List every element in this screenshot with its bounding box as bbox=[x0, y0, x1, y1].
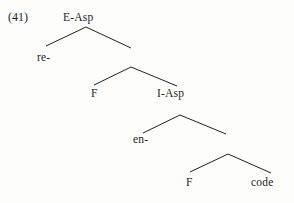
branch-mid2-left bbox=[143, 115, 180, 133]
branch-mid3-right bbox=[228, 154, 271, 173]
branch-mid1-left bbox=[94, 67, 131, 85]
node-label-i-asp: I-Asp bbox=[157, 88, 184, 100]
node-label-en: en- bbox=[133, 134, 148, 146]
node-label-code: code bbox=[251, 177, 274, 189]
node-label-f-upper: F bbox=[91, 88, 98, 100]
tree-branches bbox=[0, 0, 294, 203]
branch-root-left bbox=[46, 27, 86, 46]
node-label-f-lower: F bbox=[186, 177, 193, 189]
node-label-re: re- bbox=[37, 52, 50, 64]
node-label-e-asp: E-Asp bbox=[63, 12, 93, 24]
branch-root-right bbox=[86, 27, 131, 48]
branch-mid1-right bbox=[131, 67, 177, 86]
branch-mid2-right bbox=[180, 115, 226, 134]
branch-mid3-left bbox=[190, 154, 228, 172]
example-figure: (41) E-Asp re- F I-Asp en- F code bbox=[0, 0, 294, 203]
